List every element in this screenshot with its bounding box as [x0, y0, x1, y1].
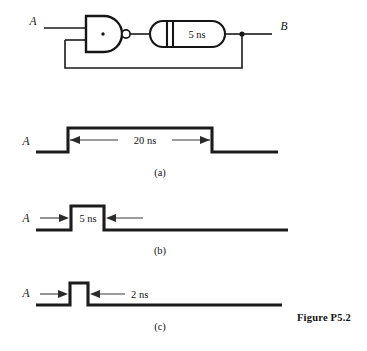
circuit-output-label: B: [280, 20, 287, 32]
waveform-b-signal-label: A: [21, 212, 30, 224]
inversion-bubble-icon: [122, 30, 130, 38]
waveform-a-duration-label: 20 ns: [134, 135, 156, 146]
figure-p5-2: 5 ns A B A 20 ns (a): [0, 0, 367, 351]
waveform-b-group: A 5 ns (b): [21, 206, 288, 257]
waveform-c-trace: [36, 283, 282, 305]
circuit-input-label: A: [28, 15, 37, 27]
waveform-b-arrow-left-icon: [59, 214, 69, 222]
waveform-b-trace: [36, 206, 288, 230]
waveform-b-arrow-right-icon: [106, 214, 116, 222]
figure-caption: Figure P5.2: [297, 312, 351, 323]
waveform-c-group: A 2 ns (c): [21, 283, 282, 333]
waveform-c-duration-label: 2 ns: [131, 289, 148, 300]
circuit-diagram: 5 ns A B: [28, 15, 287, 68]
waveform-b-sub-label: (b): [154, 245, 167, 257]
figure-canvas: 5 ns A B A 20 ns (a): [0, 0, 367, 351]
waveform-a-arrow-left-icon: [70, 136, 80, 144]
waveform-c-signal-label: A: [21, 287, 30, 299]
waveform-a-group: A 20 ns (a): [21, 128, 278, 179]
waveform-c-sub-label: (c): [154, 321, 166, 333]
waveform-c-arrow-right-icon: [90, 290, 100, 298]
waveform-a-sub-label: (a): [154, 167, 166, 179]
delay-value-label: 5 ns: [188, 29, 205, 40]
waveform-c-arrow-left-icon: [58, 290, 68, 298]
and-operator-dot: [101, 32, 104, 35]
waveform-a-signal-label: A: [21, 135, 30, 147]
waveform-b-duration-label: 5 ns: [79, 213, 96, 224]
waveform-a-arrow-right-icon: [200, 136, 210, 144]
